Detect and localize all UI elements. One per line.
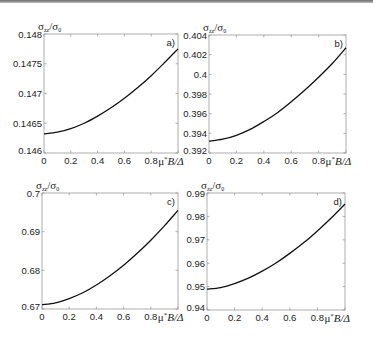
- y-tick-label: 0.394: [183, 128, 207, 139]
- y-axis-label: σzz/σ0: [38, 20, 61, 33]
- y-tick-label: 0.146: [18, 145, 42, 156]
- x-axis-label: μ*B/Δ: [158, 311, 184, 323]
- x-tick-label: 0.8: [145, 155, 158, 166]
- x-tick-label: 0: [206, 155, 211, 166]
- x-tick-label: 0: [39, 311, 44, 322]
- panel-label: c): [167, 196, 175, 207]
- x-tick-label: 0.2: [230, 155, 243, 166]
- x-tick-label: 0.8: [311, 312, 324, 323]
- x-tick-label: 0.4: [256, 312, 269, 323]
- y-tick-label: 0.67: [22, 301, 41, 312]
- y-tick-label: 0.396: [183, 108, 207, 119]
- y-axis-label: σzz/σ0: [36, 179, 59, 192]
- y-tick-label: 0.392: [183, 145, 207, 156]
- plot-frame: [207, 193, 345, 310]
- x-tick-label: 0.4: [257, 155, 270, 166]
- y-tick-label: 0.68: [22, 265, 41, 276]
- y-tick-label: 0.95: [187, 281, 206, 292]
- panel-label: a): [167, 37, 175, 48]
- x-tick-label: 0.6: [117, 311, 130, 322]
- data-curve: [207, 204, 345, 289]
- y-tick-label: 0.402: [183, 49, 207, 60]
- data-curve: [42, 210, 178, 304]
- x-tick-label: 0.8: [312, 155, 325, 166]
- plot-frame: [42, 193, 178, 309]
- plot-frame: [209, 35, 346, 153]
- x-tick-label: 0.2: [228, 312, 241, 323]
- chart-panel-a: 00.20.40.60.80.1460.14650.1470.14750.148…: [13, 20, 184, 167]
- y-tick-label: 0.4: [194, 69, 207, 80]
- data-curve: [209, 48, 346, 141]
- x-axis-label: μ*B/Δ: [326, 155, 352, 167]
- panel-label: b): [335, 38, 343, 49]
- y-tick-label: 0.96: [187, 258, 206, 269]
- y-tick-label: 0.69: [22, 226, 41, 237]
- y-tick-label: 0.97: [187, 234, 206, 245]
- x-tick-label: 0: [41, 155, 46, 166]
- y-axis-label: σzz/σ0: [201, 179, 224, 192]
- data-curve: [44, 49, 178, 134]
- plot-frame: [44, 34, 178, 153]
- x-tick-label: 0: [204, 312, 209, 323]
- x-axis-label: μ*B/Δ: [158, 155, 184, 167]
- x-tick-label: 0.4: [91, 155, 104, 166]
- x-axis-label: μ*B/Δ: [324, 312, 350, 324]
- y-tick-label: 0.1465: [13, 118, 42, 129]
- y-tick-label: 0.94: [187, 302, 206, 313]
- chart-panel-c: 00.20.40.60.80.670.680.690.7c)σzz/σ0μ*B/…: [22, 179, 184, 323]
- y-tick-label: 0.398: [183, 89, 207, 100]
- x-tick-label: 0.6: [118, 155, 131, 166]
- x-tick-label: 0.6: [285, 155, 298, 166]
- x-tick-label: 0.2: [64, 155, 77, 166]
- y-tick-label: 0.1475: [13, 58, 42, 69]
- y-axis-label: σzz/σ0: [203, 21, 226, 34]
- x-tick-label: 0.4: [90, 311, 103, 322]
- chart-panel-d: 00.20.40.60.80.940.950.960.970.980.99d)σ…: [187, 179, 351, 324]
- figure-2x2-panels: 00.20.40.60.80.1460.14650.1470.14750.148…: [0, 0, 373, 340]
- x-tick-label: 0.6: [283, 312, 296, 323]
- y-tick-label: 0.98: [187, 211, 206, 222]
- chart-panel-b: 00.20.40.60.80.3920.3940.3960.3980.40.40…: [183, 21, 351, 167]
- panel-label: d): [334, 196, 342, 207]
- x-tick-label: 0.2: [63, 311, 76, 322]
- y-tick-label: 0.147: [18, 88, 42, 99]
- x-tick-label: 0.8: [144, 311, 157, 322]
